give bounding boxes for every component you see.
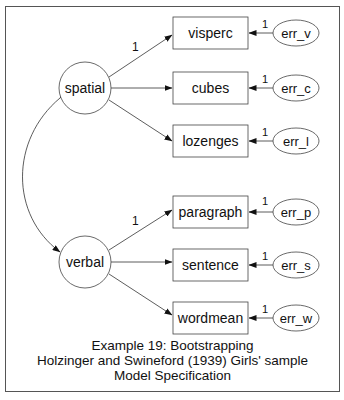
error-err-s[interactable]: err_s <box>273 252 319 278</box>
error-weight-v: 1 <box>262 18 268 30</box>
observed-sentence[interactable]: sentence <box>173 249 248 281</box>
observed-cubes[interactable]: cubes <box>173 72 248 104</box>
error-err-w[interactable]: err_w <box>273 305 319 331</box>
svg-text:paragraph: paragraph <box>179 204 243 220</box>
svg-text:err_v: err_v <box>281 26 311 41</box>
error-weight-s: 1 <box>262 250 268 262</box>
caption-line-3: Model Specification <box>5 368 340 383</box>
svg-text:visperc: visperc <box>188 25 232 41</box>
error-err-p[interactable]: err_p <box>273 199 319 225</box>
svg-text:sentence: sentence <box>182 257 239 273</box>
diagram-frame <box>6 7 340 392</box>
svg-text:err_p: err_p <box>281 205 311 220</box>
observed-wordmean[interactable]: wordmean <box>173 302 248 334</box>
latent-spatial[interactable]: spatial <box>59 62 111 114</box>
observed-visperc[interactable]: visperc <box>173 17 248 49</box>
caption-line-2: Holzinger and Swineford (1939) Girls' sa… <box>5 353 340 368</box>
error-weight-p: 1 <box>262 195 268 207</box>
latent-verbal[interactable]: verbal <box>59 236 111 288</box>
svg-text:wordmean: wordmean <box>177 310 243 326</box>
svg-text:err_s: err_s <box>281 258 311 273</box>
observed-lozenges[interactable]: lozenges <box>173 125 248 157</box>
loading-arrow-paragraph <box>109 210 172 250</box>
svg-text:verbal: verbal <box>66 254 104 270</box>
svg-text:lozenges: lozenges <box>182 133 238 149</box>
loading-arrow-lozenges <box>109 100 172 141</box>
svg-text:err_w: err_w <box>280 311 313 326</box>
covariance-arrow <box>23 98 61 252</box>
caption-line-1: Example 19: Bootstrapping <box>5 338 340 353</box>
error-weight-w: 1 <box>262 303 268 315</box>
error-err-c[interactable]: err_c <box>273 75 319 101</box>
loading-label-visperc: 1 <box>132 40 139 54</box>
svg-text:spatial: spatial <box>65 80 105 96</box>
svg-text:cubes: cubes <box>192 80 229 96</box>
loading-arrow-wordmean <box>109 274 172 315</box>
svg-text:err_c: err_c <box>281 81 311 96</box>
error-err-v[interactable]: err_v <box>273 20 319 46</box>
error-weight-c: 1 <box>262 73 268 85</box>
error-err-l[interactable]: err_l <box>273 128 319 154</box>
observed-paragraph[interactable]: paragraph <box>173 196 248 228</box>
loading-arrow-visperc <box>109 35 172 77</box>
loading-label-paragraph: 1 <box>132 214 139 228</box>
error-weight-l: 1 <box>262 126 268 138</box>
svg-text:err_l: err_l <box>283 134 309 149</box>
